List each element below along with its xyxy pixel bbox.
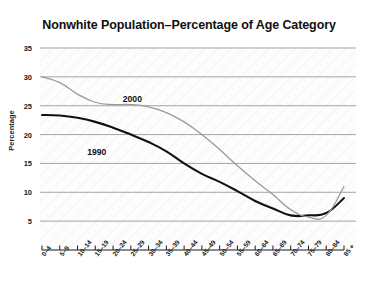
y-axis-tick-label: 30 — [10, 72, 32, 81]
chart-title: Nonwhite Population–Percentage of Age Ca… — [0, 18, 378, 32]
y-axis-tick-label: 20 — [10, 130, 32, 139]
y-axis-tick-label: 25 — [10, 101, 32, 110]
y-axis-tick-label: 5 — [10, 217, 32, 226]
series-label-2000: 2000 — [123, 94, 142, 104]
plot-area: 19902000 — [40, 48, 356, 250]
y-axis-tick-label: 15 — [10, 159, 32, 168]
y-axis-tick-label: 10 — [10, 188, 32, 197]
series-label-1990: 1990 — [87, 147, 106, 157]
y-axis-tick-label: 35 — [10, 44, 32, 53]
chart-container: Nonwhite Population–Percentage of Age Ca… — [0, 0, 378, 293]
